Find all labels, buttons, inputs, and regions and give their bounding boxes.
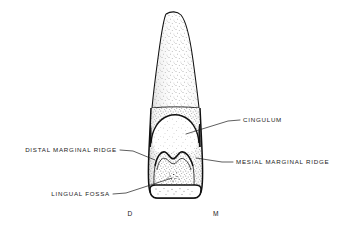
orientation-marker-mesial: M	[213, 210, 219, 217]
tooth-root	[145, 8, 207, 112]
label-mesial-marginal-ridge: MESIAL MARGINAL RIDGE	[236, 158, 329, 165]
label-cingulum: CINGULUM	[243, 116, 282, 123]
label-distal-marginal-ridge: DISTAL MARGINAL RIDGE	[25, 146, 117, 153]
label-lingual-fossa: LINGUAL FOSSA	[51, 190, 110, 197]
figure-page: DISTAL MARGINAL RIDGE LINGUAL FOSSA CING…	[0, 0, 348, 228]
incisal-edge	[150, 185, 201, 198]
tooth-diagram: DISTAL MARGINAL RIDGE LINGUAL FOSSA CING…	[0, 0, 348, 228]
orientation-marker-distal: D	[127, 210, 132, 217]
